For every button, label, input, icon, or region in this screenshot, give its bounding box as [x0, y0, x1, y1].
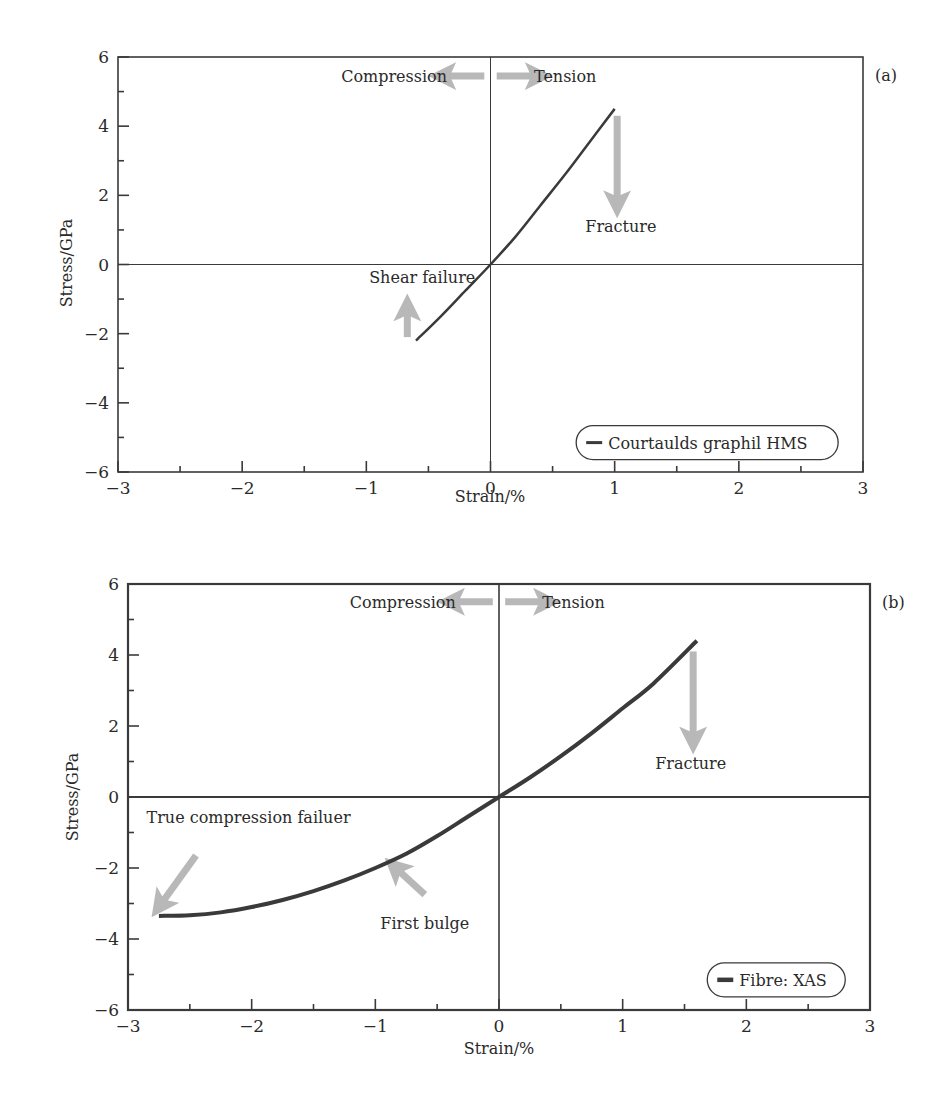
panel-label: (b) — [882, 593, 905, 612]
true-compression-failure-arrow-icon — [159, 856, 196, 907]
chart-panel-b: −6−4−20246 −3−2−10123 CompressionTension… — [63, 574, 905, 1058]
annotation-text: Fracture — [585, 217, 656, 236]
y-tick-label: 4 — [98, 116, 109, 136]
x-tick-label: 2 — [733, 478, 744, 498]
y-tick-label: 4 — [108, 645, 119, 665]
annotation-text: Tension — [534, 67, 596, 86]
x-tick-label: −2 — [230, 478, 255, 498]
y-tick-label: −2 — [94, 858, 119, 878]
y-tick-label: 2 — [108, 716, 119, 736]
x-axis-label: Strain/% — [455, 487, 526, 506]
panel-label: (a) — [875, 66, 897, 85]
first-bulge-arrow-icon — [394, 866, 425, 894]
annotation-arrows — [159, 602, 693, 907]
x-tick-label: 3 — [858, 478, 869, 498]
annotation-arrows — [407, 76, 617, 337]
x-tick-labels: −3−2−10123 — [115, 1016, 875, 1036]
x-tick-label: −3 — [115, 1016, 140, 1036]
y-axis-label: Stress/GPa — [63, 752, 82, 841]
stress-strain-figure: −6−4−20246 −3−2−10123 CompressionTension… — [0, 0, 952, 1111]
y-tick-label: 0 — [98, 255, 109, 275]
y-tick-label: 2 — [98, 185, 109, 205]
y-tick-label: −4 — [84, 393, 109, 413]
x-tick-label: −1 — [363, 1016, 388, 1036]
y-tick-label: −4 — [94, 929, 119, 949]
x-tick-label: 0 — [494, 1016, 505, 1036]
annotation-text: Compression — [341, 67, 447, 86]
x-tick-label: 3 — [865, 1016, 876, 1036]
annotation-text: True compression failuer — [147, 808, 351, 827]
x-tick-label: 1 — [609, 478, 620, 498]
y-tick-label: 0 — [108, 787, 119, 807]
x-tick-label: 2 — [741, 1016, 752, 1036]
y-tick-label: 6 — [108, 574, 119, 594]
annotation-text: Shear failure — [369, 268, 475, 287]
annotation-text: First bulge — [380, 914, 469, 933]
x-tick-label: −3 — [105, 478, 130, 498]
y-tick-labels: −6−4−20246 — [84, 47, 109, 482]
legend[interactable]: Courtaulds graphil HMS — [576, 426, 838, 460]
x-tick-label: −1 — [354, 478, 379, 498]
data-series — [159, 641, 697, 916]
x-axis-label: Strain/% — [464, 1039, 535, 1058]
y-tick-label: 6 — [98, 47, 109, 67]
annotations: CompressionTensionFractureTrue compressi… — [147, 593, 727, 933]
legend[interactable]: Fibre: XAS — [707, 963, 845, 997]
legend-entry: Fibre: XAS — [739, 971, 826, 990]
y-tick-labels: −6−4−20246 — [94, 574, 119, 1020]
x-tick-label: 1 — [617, 1016, 628, 1036]
x-tick-label: −2 — [239, 1016, 264, 1036]
series-line — [159, 641, 697, 916]
annotation-text: Tension — [542, 593, 604, 612]
y-tick-label: −2 — [84, 324, 109, 344]
chart-panel-a: −6−4−20246 −3−2−10123 CompressionTension… — [57, 47, 897, 506]
annotation-text: Fracture — [655, 754, 726, 773]
annotation-text: Compression — [350, 593, 456, 612]
y-axis-label: Stress/GPa — [57, 218, 76, 307]
legend-entry: Courtaulds graphil HMS — [608, 434, 807, 453]
